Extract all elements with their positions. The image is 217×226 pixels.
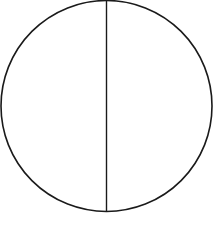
diagram-canvas [0,0,217,226]
